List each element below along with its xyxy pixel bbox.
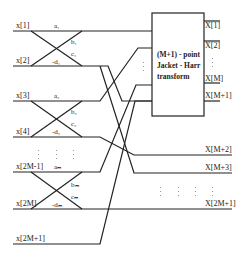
input-label-x2M1: x[2M+1] xyxy=(16,234,45,243)
input-label-x1: x[1] xyxy=(16,21,30,30)
block-line-1: (M+1) - point xyxy=(157,50,201,59)
coef-cM: cₘ xyxy=(71,193,78,201)
coef-b2: b₂ xyxy=(71,108,78,116)
input-label-x2M: x[2M] xyxy=(16,199,37,208)
output-label-X2: X[2] xyxy=(205,41,220,50)
coef-b1: b₁ xyxy=(71,38,77,46)
output-label-XM3: X[M+3] xyxy=(205,163,232,172)
ellipsis-dots-right xyxy=(160,187,213,196)
line-x3-to-X2 xyxy=(13,48,152,101)
output-label-XM2: X[M+2] xyxy=(205,145,232,154)
input-label-x2M-1: x[2M-1] xyxy=(16,162,43,171)
input-label-x3: x[3] xyxy=(16,91,30,100)
coef-a2: a₂ xyxy=(54,92,60,100)
coef-d2: -d₂ xyxy=(52,128,61,136)
output-label-XM1: X[M+1] xyxy=(205,91,232,100)
output-label-X2M1: X[2M+1] xyxy=(205,199,236,208)
coef-dM: -dₘ xyxy=(52,201,62,209)
line-x2M-1-to-XM xyxy=(13,85,152,172)
coef-bM: bₘ xyxy=(71,181,79,189)
coef-aM: aₘ xyxy=(54,163,61,171)
coef-d1: -d₁ xyxy=(52,58,60,66)
block-line-3: transform xyxy=(157,72,190,81)
coef-c1: c₁ xyxy=(71,50,77,58)
input-label-x2: x[2] xyxy=(16,56,30,65)
diagram-canvas: (M+1) - point Jacket - Harr transform x[… xyxy=(0,0,244,258)
jacket-harr-diagram: (M+1) - point Jacket - Harr transform x[… xyxy=(0,0,244,258)
block-line-2: Jacket - Harr xyxy=(157,61,201,70)
coef-c2: c₂ xyxy=(71,120,77,128)
output-label-XM: X[M] xyxy=(205,74,224,83)
coef-a1: a₁ xyxy=(54,22,60,30)
output-label-X1: X[1] xyxy=(205,21,220,30)
input-label-x4: x[4] xyxy=(16,127,30,136)
